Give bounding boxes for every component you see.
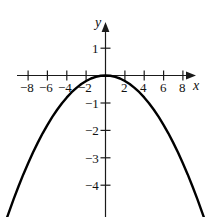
- x-tick-label--8: −8: [20, 81, 34, 94]
- y-tick-label--2: −2: [85, 124, 99, 137]
- y-tick-label--4: −4: [85, 179, 99, 192]
- y-axis-label: y: [95, 16, 101, 30]
- x-tick-label-6: 6: [160, 81, 167, 94]
- chart-canvas: [0, 0, 209, 217]
- y-tick-label--1: −1: [85, 97, 99, 110]
- y-tick-label-1: 1: [92, 42, 99, 55]
- parabola-chart: −8 −6 −4 −2 2 4 6 8 1 −1 −2 −3 −4 y x: [0, 0, 209, 217]
- y-axis: [102, 22, 110, 217]
- x-tick-label-2: 2: [121, 81, 128, 94]
- x-tick-label-4: 4: [140, 81, 147, 94]
- y-tick-label--3: −3: [85, 152, 99, 165]
- x-tick-label-8: 8: [179, 81, 186, 94]
- x-tick-label--6: −6: [39, 81, 53, 94]
- x-tick-label--4: −4: [58, 81, 72, 94]
- x-tick-label--2: −2: [78, 81, 92, 94]
- x-axis-label: x: [193, 79, 199, 93]
